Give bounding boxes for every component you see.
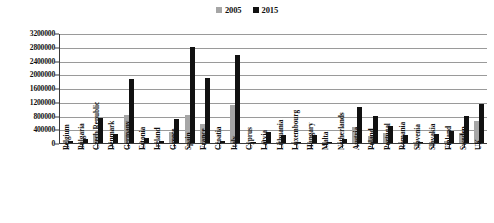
x-axis-tick-label: Slovenia — [414, 124, 421, 150]
x-axis-category: Malta — [319, 144, 334, 223]
x-axis-category: Belgium — [59, 144, 74, 223]
x-axis-tick-label: UK — [476, 139, 483, 150]
y-axis-tick-label: 2400000 — [30, 58, 55, 66]
x-axis-tick-label: France — [200, 128, 207, 150]
x-axis-tick-label: Slovakia — [430, 124, 437, 150]
bar-group — [472, 34, 487, 143]
x-axis-tick-label: Cyprus — [246, 127, 253, 150]
x-axis-category: Lithuania — [273, 144, 288, 223]
x-axis-tick-label: Finland — [445, 126, 452, 150]
x-axis-tick-label: Spain — [185, 132, 192, 150]
x-axis-tick-label: Germany — [124, 121, 131, 150]
x-axis-tick-label: Austria — [353, 127, 360, 150]
x-axis-category: Austria — [349, 144, 364, 223]
x-axis-tick-label: Belgium — [63, 124, 70, 150]
x-axis-category: Croatia — [212, 144, 227, 223]
x-axis-category: Latvia — [258, 144, 273, 223]
x-axis-tick-label: Sweden — [460, 126, 467, 150]
x-axis-tick-label: Czech Republic — [94, 102, 101, 150]
x-axis-category: Czech Republic — [90, 144, 105, 223]
x-axis-category: Sweden — [456, 144, 471, 223]
x-axis-category: Ireland — [151, 144, 166, 223]
y-axis-tick-label: 2000000 — [30, 71, 55, 79]
x-axis-category: Poland — [365, 144, 380, 223]
x-axis-category: Netherlands — [334, 144, 349, 223]
x-axis-category: Slovenia — [410, 144, 425, 223]
x-axis-category: Greece — [166, 144, 181, 223]
legend-label-2015: 2015 — [262, 6, 279, 15]
x-axis-tick-label: Latvia — [262, 130, 269, 150]
x-axis-tick-label: Ireland — [155, 127, 162, 150]
x-axis-tick-label: Bulgaria — [78, 123, 85, 150]
bar-group — [319, 34, 334, 143]
x-axis-tick-label: Netherlands — [338, 113, 345, 151]
x-axis-tick-label: Greece — [170, 129, 177, 150]
x-axis-category: Portugal — [380, 144, 395, 223]
bar-group — [365, 34, 380, 143]
x-axis-category: Italy — [227, 144, 242, 223]
x-axis-tick-label: Italy — [231, 136, 238, 150]
x-axis-category: Cyprus — [242, 144, 257, 223]
x-axis-tick-label: Portugal — [384, 123, 391, 150]
y-axis: 3200000280000024000002000000160000012000… — [0, 34, 59, 144]
bar-2015 — [479, 104, 484, 143]
x-axis-category: Germany — [120, 144, 135, 223]
x-axis-category: Luxembourg — [288, 144, 303, 223]
x-axis-category: Estonia — [135, 144, 150, 223]
bar-2015 — [235, 55, 240, 143]
chart-legend: 2005 2015 — [0, 6, 494, 15]
bar-group — [197, 34, 212, 143]
x-axis-tick-label: Denmark — [109, 121, 116, 150]
x-axis-category: UK — [472, 144, 487, 223]
y-axis-tick-label: 1600000 — [30, 85, 55, 93]
x-axis-category: Hungary — [304, 144, 319, 223]
x-axis-tick-label: Luxembourg — [292, 110, 299, 150]
x-axis-category: Slovakia — [426, 144, 441, 223]
x-axis-tick-label: Lithuania — [277, 120, 284, 150]
x-axis-tick-label: Hungary — [307, 122, 314, 150]
x-axis: BelgiumBulgariaCzech RepublicDenmarkGerm… — [59, 144, 487, 223]
x-axis-category: Denmark — [105, 144, 120, 223]
y-axis-tick-label: 2800000 — [30, 44, 55, 52]
legend-item-2005: 2005 — [216, 6, 242, 15]
y-axis-tick-label: 3200000 — [30, 30, 55, 38]
y-axis-tick-label: 800000 — [33, 113, 55, 121]
x-axis-tick-label: Croatia — [216, 127, 223, 150]
bar-group — [167, 34, 182, 143]
x-axis-tick-label: Romania — [399, 122, 406, 150]
x-axis-category: Bulgaria — [74, 144, 89, 223]
x-axis-category: France — [197, 144, 212, 223]
legend-swatch-2005 — [216, 7, 222, 13]
x-axis-tick-label: Poland — [369, 128, 376, 150]
x-axis-category: Finland — [441, 144, 456, 223]
x-axis-category: Romania — [395, 144, 410, 223]
bar-group — [258, 34, 273, 143]
y-axis-tick-label: 400000 — [33, 126, 55, 134]
bar-2015 — [190, 47, 195, 143]
bar-chart: 2005 2015 320000028000002400000200000016… — [0, 0, 494, 223]
legend-label-2005: 2005 — [225, 6, 242, 15]
bar-group — [228, 34, 243, 143]
legend-swatch-2015 — [253, 7, 259, 13]
y-axis-tick-label: 1200000 — [30, 99, 55, 107]
x-axis-tick-label: Estonia — [139, 127, 146, 150]
legend-item-2015: 2015 — [253, 6, 279, 15]
x-axis-category: Spain — [181, 144, 196, 223]
x-axis-tick-label: Malta — [323, 132, 330, 150]
bar-group — [182, 34, 197, 143]
